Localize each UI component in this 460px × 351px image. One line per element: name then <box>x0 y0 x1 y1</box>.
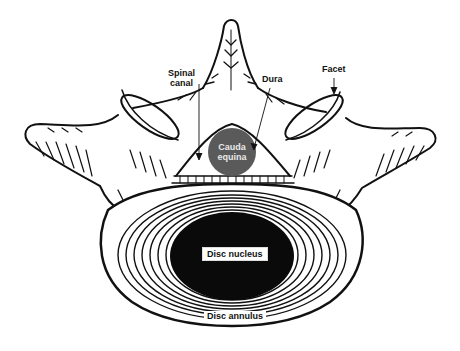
spinal-canal-label-line2: canal <box>168 78 195 88</box>
left-facet <box>115 88 184 147</box>
cauda-label-line2: equina <box>210 152 254 162</box>
vertebra-diagram: Spinal canal Dura Facet Cauda equina Dis… <box>0 0 460 351</box>
disc-annulus-label: Disc annulus <box>204 311 266 321</box>
spinal-canal-label-line1: Spinal <box>168 68 195 78</box>
facet-label: Facet <box>322 64 346 74</box>
cauda-equina-label: Cauda equina <box>210 142 254 162</box>
disc-nucleus-label: Disc nucleus <box>202 247 268 261</box>
cauda-label-line1: Cauda <box>210 142 254 152</box>
dura-label: Dura <box>262 74 283 84</box>
spinal-canal-label: Spinal canal <box>168 68 195 88</box>
dura-leader <box>254 88 270 148</box>
right-transverse-process <box>340 118 435 212</box>
